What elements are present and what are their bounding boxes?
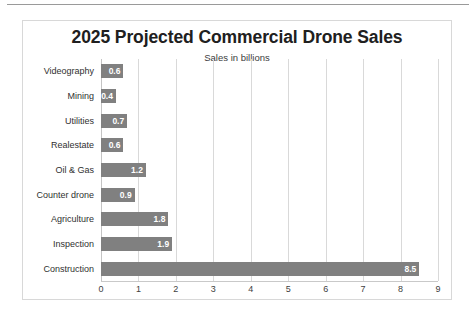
x-tick-label: 5 — [286, 284, 291, 294]
bar[interactable]: 0.6 — [101, 64, 123, 78]
bar-row[interactable]: 0.6 — [101, 59, 438, 84]
bar-series: 0.60.40.70.61.20.91.81.98.5 — [101, 59, 438, 281]
chart-title: 2025 Projected Commercial Drone Sales — [23, 27, 451, 48]
bar-value-label: 1.9 — [157, 239, 172, 249]
y-axis-label: Counter drone — [23, 182, 99, 207]
plot-area: 0.60.40.70.61.20.91.81.98.5 — [101, 59, 438, 281]
bar-value-label: 0.9 — [120, 190, 135, 200]
y-axis-label: Videography — [23, 59, 99, 84]
y-axis-label: Utilities — [23, 108, 99, 133]
bar[interactable]: 0.7 — [101, 114, 127, 128]
page-top-rule — [7, 4, 469, 5]
y-axis-label: Oil & Gas — [23, 158, 99, 183]
x-tick-label: 3 — [211, 284, 216, 294]
bar-value-label: 1.8 — [154, 214, 169, 224]
bar-value-label: 8.5 — [404, 264, 419, 274]
bar[interactable]: 0.4 — [101, 89, 116, 103]
bar-row[interactable]: 1.2 — [101, 158, 438, 183]
x-tick-label: 0 — [98, 284, 103, 294]
y-axis-label: Inspection — [23, 232, 99, 257]
x-tick-label: 8 — [398, 284, 403, 294]
bar-value-label: 0.6 — [109, 66, 124, 76]
x-tick-label: 7 — [361, 284, 366, 294]
bar-row[interactable]: 8.5 — [101, 256, 438, 281]
bar[interactable]: 0.9 — [101, 188, 135, 202]
bar-value-label: 0.6 — [109, 140, 124, 150]
bar[interactable]: 1.2 — [101, 163, 146, 177]
x-tick-label: 4 — [248, 284, 253, 294]
bar-value-label: 0.7 — [112, 116, 127, 126]
gridline — [438, 59, 439, 281]
bar[interactable]: 1.8 — [101, 212, 168, 226]
y-axis-label: Agriculture — [23, 207, 99, 232]
x-axis-tick-labels: 0123456789 — [101, 284, 438, 300]
bar-row[interactable]: 0.9 — [101, 182, 438, 207]
bar-value-label: 1.2 — [131, 165, 146, 175]
bar-row[interactable]: 1.8 — [101, 207, 438, 232]
bar-row[interactable]: 0.6 — [101, 133, 438, 158]
y-axis-label: Realestate — [23, 133, 99, 158]
bar[interactable]: 0.6 — [101, 138, 123, 152]
chart-container: 2025 Projected Commercial Drone Sales Sa… — [22, 20, 452, 300]
x-tick-label: 2 — [173, 284, 178, 294]
bar-row[interactable]: 0.7 — [101, 108, 438, 133]
bar-row[interactable]: 1.9 — [101, 232, 438, 257]
y-axis-label: Construction — [23, 256, 99, 281]
bar[interactable]: 1.9 — [101, 237, 172, 251]
y-axis-category-labels: VideographyMiningUtilitiesRealestateOil … — [23, 59, 99, 281]
x-axis-line — [101, 281, 438, 282]
bar[interactable]: 8.5 — [101, 262, 419, 276]
y-axis-label: Mining — [23, 84, 99, 109]
bar-value-label: 0.4 — [101, 91, 116, 101]
x-tick-label: 1 — [136, 284, 141, 294]
x-tick-label: 9 — [435, 284, 440, 294]
x-tick-label: 6 — [323, 284, 328, 294]
bar-row[interactable]: 0.4 — [101, 84, 438, 109]
